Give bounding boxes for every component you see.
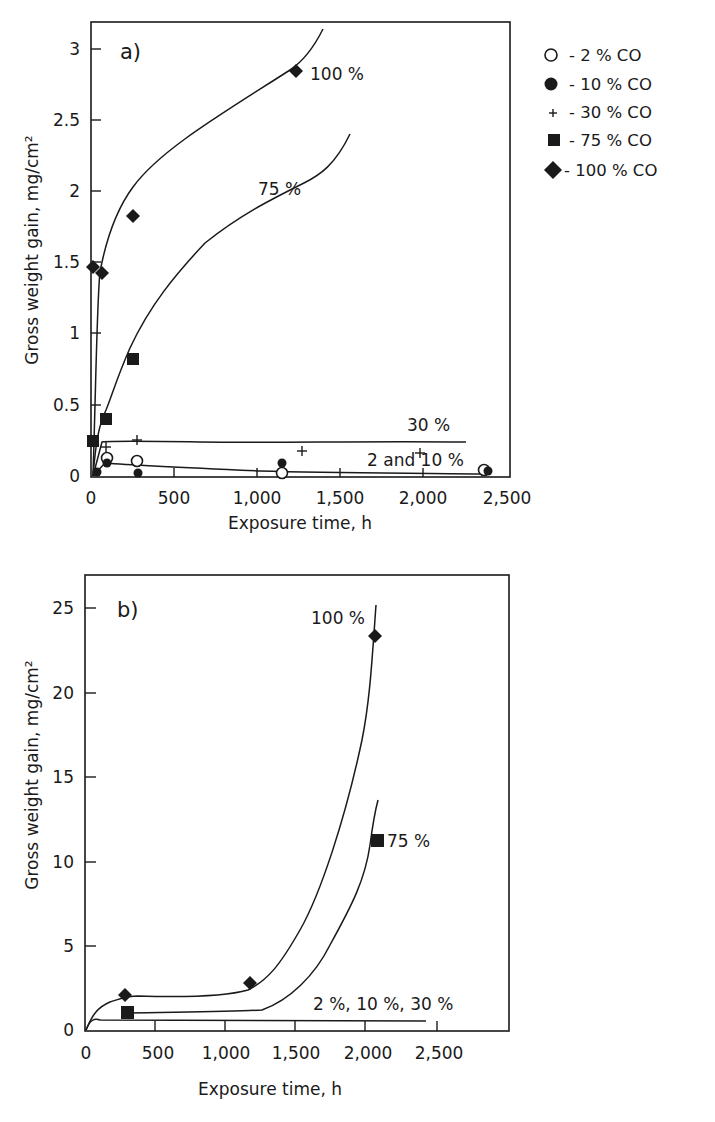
y-tick-label: 1 <box>69 323 80 343</box>
series-100pct-b <box>118 629 382 1002</box>
curve-100-b <box>86 605 376 1030</box>
legend-item-30pct <box>549 109 557 117</box>
x-tick-label: 500 <box>142 1043 174 1063</box>
x-tick-label: 2,000 <box>344 1043 393 1063</box>
annotation-low-b: 2 %, 10 %, 30 % <box>313 994 453 1014</box>
x-axis-title-b: Exposure time, h <box>198 1079 342 1099</box>
panel-label-a: a) <box>120 40 141 64</box>
annotation-100-b: 100 % <box>311 608 365 628</box>
curve-100-a <box>93 29 323 476</box>
legend-item-10pct: - 10 % CO <box>545 75 652 94</box>
chart-panel-b: 25 20 15 10 5 0 0 500 1,000 1,500 2,000 … <box>22 575 509 1099</box>
y-tick-label: 0.5 <box>53 395 80 415</box>
y-tick-label: 3 <box>69 39 80 59</box>
filled-square-icon <box>548 134 560 146</box>
y-tick-labels-b: 25 20 15 10 5 0 <box>52 598 74 1040</box>
annotation-75-b: 75 % <box>387 831 430 851</box>
y-tick-label: 5 <box>63 936 74 956</box>
x-tick-label: 1,000 <box>202 1043 251 1063</box>
y-tick-label: 10 <box>52 852 74 872</box>
legend-item-100pct: - 100 % CO <box>544 161 657 180</box>
y-axis-b <box>85 608 96 946</box>
y-axis-title-b: Gross weight gain, mg/cm² <box>22 660 42 889</box>
y-tick-label: 2.5 <box>53 110 80 130</box>
legend-item-2pct: - 2 % CO <box>545 46 641 65</box>
y-tick-label: 2 <box>69 181 80 201</box>
plot-frame-b <box>85 575 509 1031</box>
x-tick-label: 1,000 <box>233 488 282 508</box>
y-axis-title-a: Gross weight gain, mg/cm² <box>22 135 42 364</box>
legend-item-75pct: - 75 % CO <box>548 131 652 150</box>
chart-panel-a: 3 2.5 2 1.5 1 0.5 0 0 500 1,000 1,500 2,… <box>22 22 531 533</box>
y-tick-labels-a: 3 2.5 2 1.5 1 0.5 0 <box>53 39 80 486</box>
y-tick-label: 0 <box>63 1020 74 1040</box>
y-tick-label: 25 <box>52 598 74 618</box>
x-tick-label: 2,500 <box>415 1043 464 1063</box>
legend-label: - 75 % CO <box>569 131 652 150</box>
x-tick-label: 1,500 <box>316 488 365 508</box>
figure: 3 2.5 2 1.5 1 0.5 0 0 500 1,000 1,500 2,… <box>0 0 715 1122</box>
curve-75-a <box>93 134 350 476</box>
filled-circle-icon <box>545 78 558 91</box>
y-tick-label: 20 <box>52 683 74 703</box>
plot-frame-a <box>91 22 510 477</box>
legend: - 2 % CO - 10 % CO - 30 % CO - 75 % CO -… <box>544 46 657 180</box>
curves-b <box>86 605 426 1030</box>
legend-label: - 2 % CO <box>569 46 641 65</box>
annotation-2-10-a: 2 and 10 % <box>367 450 464 470</box>
open-circle-icon <box>545 49 557 61</box>
x-axis-title-a: Exposure time, h <box>228 513 372 533</box>
y-tick-label: 15 <box>52 767 74 787</box>
x-axis-b <box>155 1021 437 1031</box>
legend-label: - 100 % CO <box>564 161 657 180</box>
legend-label: - 30 % CO <box>569 103 652 122</box>
x-tick-label: 2,500 <box>483 488 532 508</box>
series-100pct-a <box>86 209 140 280</box>
y-tick-label: 1.5 <box>53 252 80 272</box>
series-75pct-b <box>121 834 384 1019</box>
x-tick-label: 2,000 <box>399 488 448 508</box>
x-tick-label: 0 <box>86 488 97 508</box>
annotation-30-a: 30 % <box>407 415 450 435</box>
legend-label: - 10 % CO <box>569 75 652 94</box>
y-tick-label: 0 <box>69 466 80 486</box>
x-tick-labels-b: 0 500 1,000 1,500 2,000 2,500 <box>81 1043 464 1063</box>
x-tick-labels-a: 0 500 1,000 1,500 2,000 2,500 <box>86 488 532 508</box>
curve-low-b <box>86 1019 426 1030</box>
panel-label-b: b) <box>117 598 139 622</box>
marker-100pct-a <box>289 64 303 78</box>
annotation-75-a: 75 % <box>258 179 301 199</box>
x-tick-label: 0 <box>81 1043 92 1063</box>
filled-diamond-icon <box>544 161 562 179</box>
x-tick-label: 500 <box>158 488 190 508</box>
curves-a <box>93 29 480 476</box>
annotation-100-a: 100 % <box>310 64 364 84</box>
x-tick-label: 1,500 <box>272 1043 321 1063</box>
